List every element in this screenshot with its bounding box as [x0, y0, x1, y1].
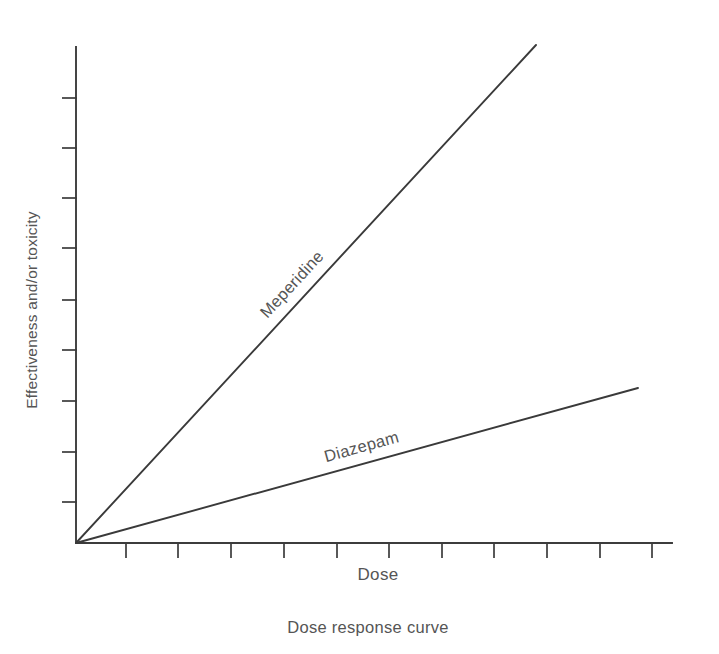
x-axis-ticks — [126, 543, 652, 558]
series-line-meperidine — [76, 45, 536, 543]
chart-canvas: Meperidine Diazepam Effectiveness and/or… — [0, 0, 719, 654]
y-axis-ticks — [62, 98, 77, 502]
series-line-diazepam — [76, 388, 638, 543]
series-group — [76, 45, 638, 543]
series-label-diazepam: Diazepam — [322, 427, 401, 465]
figure-caption: Dose response curve — [287, 618, 449, 636]
x-axis-label: Dose — [358, 565, 399, 584]
axis-group — [76, 47, 672, 543]
dose-response-figure: Meperidine Diazepam Effectiveness and/or… — [0, 0, 719, 654]
y-axis-label: Effectiveness and/or toxicity — [23, 211, 40, 409]
